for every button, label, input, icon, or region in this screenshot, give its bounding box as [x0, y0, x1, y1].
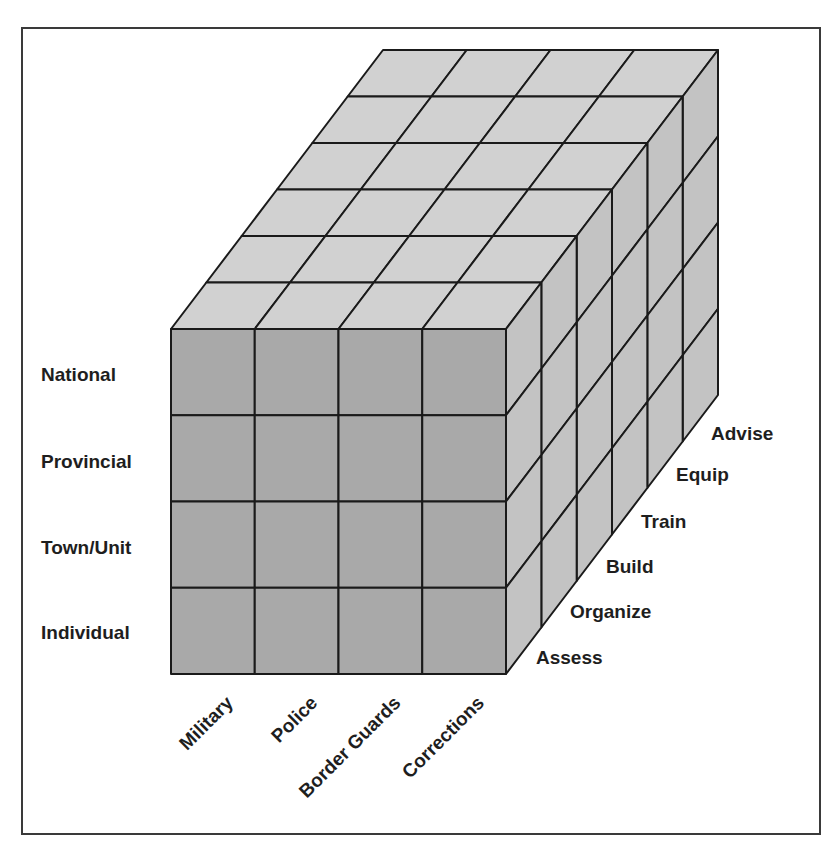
- row-label-national: National: [41, 365, 116, 384]
- front-face-cell: [171, 502, 255, 588]
- front-face-cell: [339, 329, 423, 415]
- row-label-individual: Individual: [41, 623, 130, 642]
- row-label-provincial: Provincial: [41, 452, 132, 471]
- depth-label-organize: Organize: [570, 602, 651, 621]
- front-face-cell: [171, 329, 255, 415]
- depth-label-assess: Assess: [536, 648, 603, 667]
- front-face-cell: [422, 329, 506, 415]
- depth-label-build: Build: [606, 557, 654, 576]
- front-face-cell: [255, 502, 339, 588]
- cube-diagram: [0, 0, 834, 858]
- front-face-cell: [255, 329, 339, 415]
- depth-label-equip: Equip: [676, 465, 729, 484]
- front-face-cell: [171, 588, 255, 674]
- front-face-cell: [339, 588, 423, 674]
- depth-label-advise: Advise: [711, 424, 773, 443]
- front-face-cell: [422, 502, 506, 588]
- depth-label-train: Train: [641, 512, 686, 531]
- front-face-cell: [339, 502, 423, 588]
- front-face-cell: [339, 415, 423, 501]
- front-face-cell: [422, 415, 506, 501]
- front-face-cell: [171, 415, 255, 501]
- front-face-cell: [255, 415, 339, 501]
- row-label-town-unit: Town/Unit: [41, 538, 131, 557]
- front-face-cell: [255, 588, 339, 674]
- front-face-cell: [422, 588, 506, 674]
